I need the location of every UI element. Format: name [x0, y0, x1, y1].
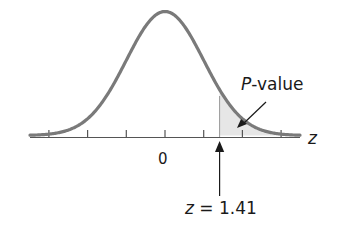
p-value-label-p: P	[241, 74, 251, 94]
normal-curve-graphic	[0, 0, 343, 233]
normal-curve-figure: 0 z P-value z = 1.41	[0, 0, 343, 233]
tick-label-zero: 0	[158, 150, 168, 168]
p-value-label-rest: -value	[251, 74, 303, 94]
z-marker-arrowhead	[215, 141, 224, 152]
z-marker-label-value: = 1.41	[194, 198, 257, 218]
axis-label-z: z	[308, 128, 317, 148]
z-marker-label: z = 1.41	[185, 198, 257, 218]
z-marker-label-z: z	[185, 198, 194, 218]
p-value-arrow	[243, 102, 266, 124]
p-value-label: P-value	[241, 74, 303, 94]
